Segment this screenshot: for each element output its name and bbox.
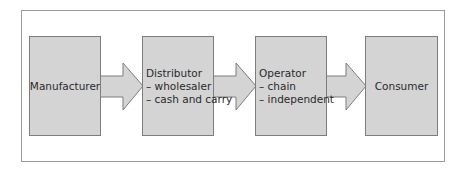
node-manufacturer: Manufacturer: [29, 36, 101, 136]
node-title: Distributor: [146, 67, 202, 80]
node-title: Manufacturer: [30, 80, 100, 93]
node-item: – independent: [259, 93, 334, 106]
node-title: Consumer: [375, 80, 429, 93]
node-item: – cash and carry: [146, 93, 232, 106]
node-distributor: Distributor – wholesaler – cash and carr…: [142, 36, 214, 136]
node-item: – chain: [259, 80, 296, 93]
node-consumer: Consumer: [365, 36, 438, 136]
arrow-icon: [100, 63, 143, 110]
node-item: – wholesaler: [146, 80, 211, 93]
node-operator: Operator – chain – independent: [255, 36, 327, 136]
node-title: Operator: [259, 67, 306, 80]
